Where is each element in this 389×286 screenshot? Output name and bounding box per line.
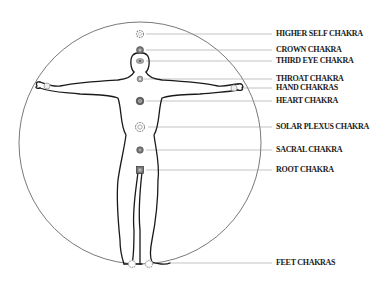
label-root-chakra: ROOT CHAKRA [276,165,334,174]
crown-chakra-icon [137,47,144,54]
heart-chakra-icon [136,97,144,105]
solar-plexus-chakra-icon [136,123,145,132]
label-third-eye-chakra: THIRD EYE CHAKRA [276,56,353,65]
leader-lines [144,34,272,263]
right-foot-chakra-icon [146,261,153,268]
throat-chakra-icon [137,76,143,82]
root-chakra-icon [137,167,144,174]
chakra-diagram: HIGHER SELF CHAKRA CROWN CHAKRA THIRD EY… [0,0,389,286]
label-throat-chakra: THROAT CHAKRA [276,74,344,83]
label-heart-chakra: HEART CHAKRA [276,96,338,105]
human-figure-icon [36,53,243,264]
label-sacral-chakra: SACRAL CHAKRA [276,145,342,154]
left-foot-chakra-icon [129,261,136,268]
diagram-graphic [0,0,389,286]
higher-self-chakra-icon [137,31,144,38]
label-feet-chakras: FEET CHAKRAS [276,258,335,267]
label-crown-chakra: CROWN CHAKRA [276,45,342,54]
left-hand-chakra-icon [44,83,50,89]
label-higher-self-chakra: HIGHER SELF CHAKRA [276,29,363,38]
label-solar-plexus-chakra: SOLAR PLEXUS CHAKRA [276,122,369,131]
right-hand-chakra-icon [231,85,237,91]
sacral-chakra-icon [137,147,144,154]
third-eye-chakra-icon [136,58,144,63]
label-hand-chakras: HAND CHAKRAS [276,83,338,92]
